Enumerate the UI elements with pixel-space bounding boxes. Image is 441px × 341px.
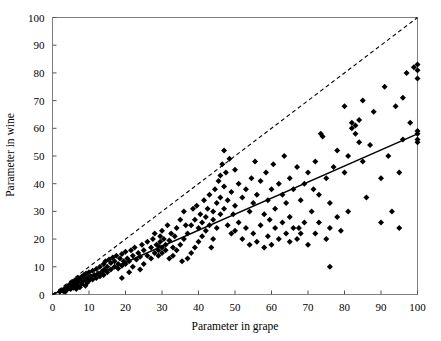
data-point	[144, 239, 150, 245]
data-point	[415, 75, 421, 81]
data-point	[236, 181, 242, 187]
data-point	[137, 267, 143, 273]
data-point	[301, 219, 307, 225]
data-point	[227, 156, 233, 162]
data-point	[228, 189, 234, 195]
data-point	[232, 203, 238, 209]
data-point	[327, 225, 333, 231]
data-point	[323, 236, 329, 242]
data-point	[323, 175, 329, 181]
data-point	[206, 222, 212, 228]
data-point	[327, 200, 333, 206]
data-point	[345, 208, 351, 214]
data-point	[179, 258, 185, 264]
data-point	[356, 117, 362, 123]
data-point	[356, 139, 362, 145]
data-point	[130, 264, 136, 270]
plot-frame	[53, 18, 418, 295]
figure-container: 0102030405060708090100010203040506070809…	[0, 0, 441, 341]
data-point	[363, 195, 369, 201]
data-point	[159, 228, 165, 234]
y-tick-label: 0	[39, 289, 45, 301]
data-point	[225, 222, 231, 228]
data-point	[174, 225, 180, 231]
data-point	[407, 120, 413, 126]
data-point	[385, 153, 391, 159]
data-point	[272, 206, 278, 212]
data-point	[212, 186, 218, 192]
data-point	[236, 219, 242, 225]
data-point	[199, 233, 205, 239]
data-point	[298, 197, 304, 203]
data-point	[221, 206, 227, 212]
data-point	[243, 186, 249, 192]
data-point	[345, 153, 351, 159]
data-point	[393, 103, 399, 109]
data-point	[239, 236, 245, 242]
x-tick-label: 90	[376, 301, 388, 313]
data-point	[396, 225, 402, 231]
data-point	[210, 236, 216, 242]
data-point	[223, 170, 229, 176]
data-point	[270, 161, 276, 167]
x-axis-title: Parameter in grape	[192, 320, 279, 333]
data-point	[296, 225, 302, 231]
data-point	[217, 211, 223, 217]
data-point	[203, 214, 209, 220]
data-point	[248, 175, 254, 181]
x-tick-label: 10	[84, 301, 96, 313]
data-point	[164, 222, 170, 228]
axis-ticks	[53, 18, 418, 295]
y-tick-label: 100	[28, 12, 45, 24]
data-point	[250, 231, 256, 237]
data-point	[258, 222, 264, 228]
x-tick-label: 80	[339, 301, 351, 313]
data-point	[152, 231, 158, 237]
data-point	[214, 225, 220, 231]
data-point	[378, 219, 384, 225]
data-point	[243, 225, 249, 231]
data-point	[290, 225, 296, 231]
data-point	[141, 247, 147, 253]
data-point	[239, 195, 245, 201]
data-point	[141, 261, 147, 267]
data-point	[247, 242, 253, 248]
y-tick-label: 50	[34, 150, 46, 162]
data-point	[378, 175, 384, 181]
data-point	[283, 200, 289, 206]
data-point	[267, 217, 273, 223]
y-axis-title: Parameter in wine	[4, 113, 16, 197]
data-point	[312, 231, 318, 237]
data-point	[334, 214, 340, 220]
data-point	[276, 181, 282, 187]
data-point	[294, 236, 300, 242]
data-point	[287, 175, 293, 181]
data-point	[305, 242, 311, 248]
data-point	[310, 186, 316, 192]
data-point	[360, 98, 366, 104]
data-point	[283, 231, 289, 237]
data-point	[261, 211, 267, 217]
y-tick-label: 20	[34, 233, 46, 245]
data-point	[208, 244, 214, 250]
data-point	[217, 172, 223, 178]
data-point	[276, 236, 282, 242]
data-point	[254, 239, 260, 245]
data-point	[382, 84, 388, 90]
data-point	[185, 255, 191, 261]
y-tick-label: 60	[34, 122, 46, 134]
data-point	[206, 192, 212, 198]
data-point	[232, 167, 238, 173]
data-point	[301, 181, 307, 187]
x-tick-label: 0	[50, 301, 56, 313]
data-point	[150, 236, 156, 242]
data-points	[57, 62, 421, 295]
plot-box	[53, 18, 418, 295]
data-point	[342, 103, 348, 109]
data-point	[316, 192, 322, 198]
data-point	[210, 217, 216, 223]
data-point	[192, 217, 198, 223]
data-point	[210, 208, 216, 214]
data-point	[294, 164, 300, 170]
data-point	[327, 264, 333, 270]
